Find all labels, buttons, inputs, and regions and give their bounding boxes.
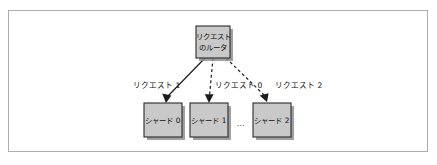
diagram-canvas: リクエスト 1 リクエスト 0 リクエスト 2 リクエスト のルータ シャード …: [0, 0, 437, 165]
edge-label-request-2: リクエスト 2: [275, 81, 322, 90]
arrowhead-shard-2: [260, 93, 269, 102]
edge-router-to-shard-1: [205, 58, 214, 103]
shard-0-label: シャード 0: [145, 116, 180, 125]
shard-2-label: シャード 2: [254, 116, 289, 125]
router-label-line1: リクエスト: [196, 32, 231, 41]
arrowhead-shard-0: [162, 94, 171, 103]
shard-ellipsis: …: [237, 119, 246, 128]
router-label-line2: のルータ: [199, 43, 227, 52]
node-request-router[interactable]: リクエスト のルータ: [196, 26, 234, 61]
node-shard-0[interactable]: シャード 0: [144, 103, 185, 140]
router-box[interactable]: [196, 26, 230, 58]
shard-1-label: シャード 1: [191, 116, 226, 125]
node-shard-1[interactable]: シャード 1: [190, 103, 231, 140]
edge-router-to-shard-2: [226, 58, 269, 102]
edge-line-request-1: [168, 58, 205, 96]
figure-root: リクエスト 1 リクエスト 0 リクエスト 2 リクエスト のルータ シャード …: [0, 0, 437, 165]
edge-label-request-0: リクエスト 0: [215, 81, 262, 90]
arrowhead-shard-1: [205, 94, 214, 103]
edge-line-request-0: [210, 58, 214, 96]
node-shard-2[interactable]: シャード 2: [253, 103, 294, 140]
edge-label-request-1: リクエスト 1: [133, 81, 180, 90]
